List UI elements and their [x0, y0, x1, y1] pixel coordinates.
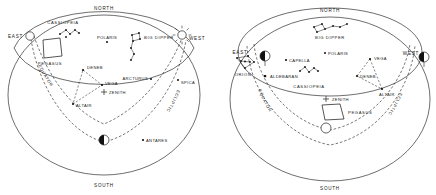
star-label-deneb-left: DENEB [87, 65, 103, 70]
celestial-equator-left [34, 36, 182, 124]
constellation-pegasus-left [43, 38, 62, 58]
ecliptic-label-left: ECLIPTIC [165, 89, 181, 113]
evening-sky-panel: NORTH SOUTH EAST WEST EQUATOR [8, 6, 205, 188]
star-label-vega-left: VEGA [105, 81, 118, 86]
constellation-label-cassiopeia-left: CASSIOPEIA [47, 20, 78, 25]
sky-dome-figure: NORTH SOUTH EAST WEST EQUATOR [0, 0, 436, 195]
star-dot-polaris-right [324, 52, 326, 54]
cardinal-north-right: NORTH [320, 8, 340, 13]
zenith-label-right: ZENITH [332, 97, 349, 102]
cardinal-east-right: EAST [233, 50, 248, 55]
morning-sky-panel: NORTH SOUTH EAST WEST EQUATOR [230, 8, 430, 191]
equator-label-right: EQUATOR [257, 88, 273, 113]
star-label-spica-left: SPICA [181, 80, 195, 85]
star-dot-capella-right [285, 59, 287, 61]
half-moon-south-left [99, 135, 109, 145]
sun-west-left [173, 26, 192, 45]
star-label-arcturus-left: ARCTURUS [122, 76, 148, 81]
star-label-aldebaran-right: ALDEBARAN [270, 74, 298, 79]
cardinal-north-left: NORTH [94, 6, 114, 11]
constellation-label-pegasus-left: PEGASUS [38, 61, 62, 66]
constellation-label-big-dipper-left: BIG DIPPER [144, 35, 174, 40]
star-dot-antares-left [142, 139, 144, 141]
dome-rim-ellipse-left [14, 12, 194, 85]
sun-south-right [321, 123, 331, 133]
cardinal-south-right: SOUTH [320, 186, 340, 191]
constellation-cassiopeia-right [299, 66, 319, 73]
star-label-altair-left: ALTAIR [76, 103, 92, 108]
cardinal-west-right: WEST [403, 51, 419, 56]
star-label-altair-right: ALTAIR [379, 92, 395, 97]
cardinal-east-left: EAST [8, 34, 23, 39]
half-moon-east-right [260, 51, 270, 66]
star-dot-arcturus-left [150, 78, 152, 80]
constellation-big-dipper-right [313, 23, 348, 33]
constellation-label-orion-right: ORION [235, 72, 252, 77]
equator-label-left: EQUATOR [37, 64, 54, 88]
star-label-polaris-left: POLARIS [97, 35, 117, 40]
constellation-cassiopeia-left [59, 29, 80, 38]
star-label-antares-left: ANTARES [146, 138, 167, 143]
constellation-label-cassiopeia-right: CASSIOPEIA [293, 84, 324, 89]
cardinal-south-left: SOUTH [94, 183, 114, 188]
star-label-deneb-right: DENEB [360, 74, 376, 79]
sun-east-left [26, 32, 34, 40]
zenith-marker-left [101, 89, 107, 95]
star-dot-spica-left [177, 79, 179, 81]
cardinal-west-left: WEST [189, 36, 205, 41]
constellation-pegasus-right [322, 104, 344, 120]
zenith-marker-right [323, 96, 329, 102]
constellation-label-pegasus-right: PEGASUS [348, 110, 372, 115]
zenith-label-left: ZENITH [109, 90, 126, 95]
constellation-label-big-dipper-right: BIG DIPPER [315, 35, 345, 40]
star-label-polaris-right: POLARIS [328, 51, 348, 56]
star-dot-polaris-left [106, 41, 108, 43]
constellation-big-dipper-left [130, 32, 141, 61]
star-label-capella-right: CAPELLA [289, 58, 310, 63]
star-dot-aldebaran-right [264, 75, 266, 77]
star-label-vega-right: VEGA [374, 56, 387, 61]
summer-triangle-left [72, 69, 103, 105]
